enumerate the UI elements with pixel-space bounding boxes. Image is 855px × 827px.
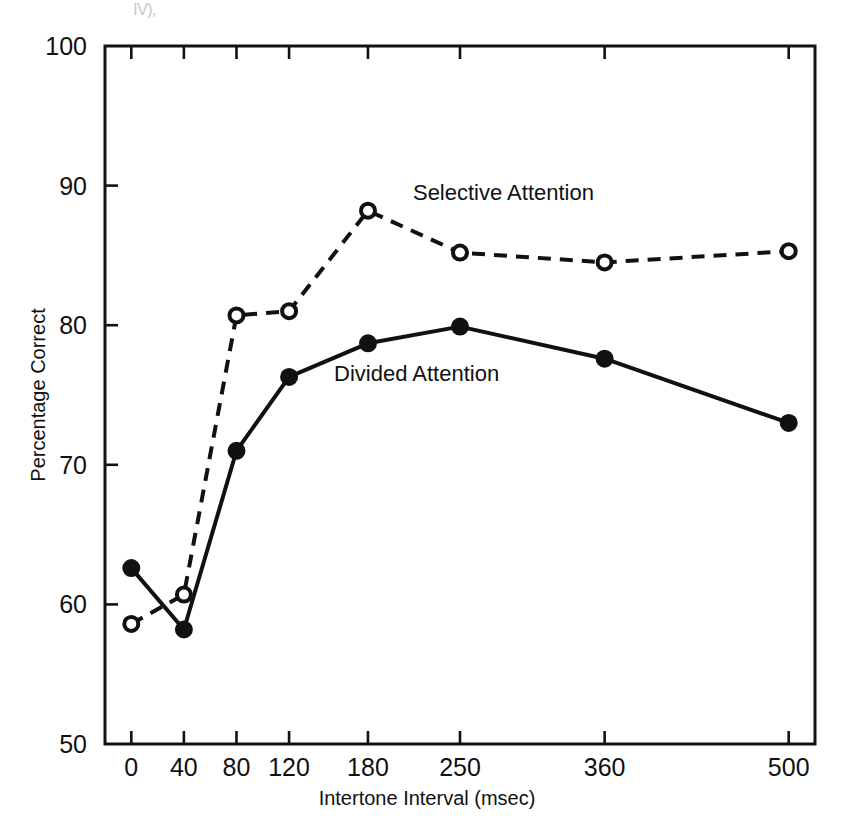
line-chart: 04080120180250360500 5060708090100 Selec… [0,0,855,827]
data-series-group [123,204,796,638]
data-point-marker [782,244,796,258]
x-tick-label: 180 [347,753,389,781]
x-tick-label: 40 [170,753,198,781]
data-point-marker [452,319,468,335]
x-axis-title: Intertone Interval (msec) [319,787,536,809]
x-tick-label: 80 [223,753,251,781]
data-point-marker [230,308,244,322]
data-point-marker [177,588,191,602]
data-point-marker [229,443,245,459]
x-tick-label: 250 [439,753,481,781]
y-tick-label: 100 [45,32,87,60]
y-axis-title: Percentage Correct [27,308,49,482]
series-annotation: Divided Attention [334,361,499,386]
data-point-marker [453,246,467,260]
y-tick-label: 70 [59,451,87,479]
chart-figure: IV), 04080120180250360500 5060708090100 … [0,0,855,827]
data-point-marker [360,335,376,351]
data-point-marker [123,560,139,576]
y-tick-label: 90 [59,172,87,200]
series-line [131,211,788,624]
y-tick-label: 60 [59,590,87,618]
x-tick-label: 360 [584,753,626,781]
data-point-marker [281,369,297,385]
y-tick-label: 50 [59,730,87,758]
x-tick-label: 120 [268,753,310,781]
data-point-marker [282,304,296,318]
data-point-marker [124,617,138,631]
y-tick-label: 80 [59,311,87,339]
axis-ticks [105,46,789,744]
data-point-marker [361,204,375,218]
x-tick-label: 500 [768,753,810,781]
y-axis-tick-labels: 5060708090100 [45,32,87,758]
series-selective-attention [124,204,795,631]
data-point-marker [781,415,797,431]
data-point-marker [598,255,612,269]
x-tick-label: 0 [124,753,138,781]
data-point-marker [597,351,613,367]
data-point-marker [176,622,192,638]
x-axis-tick-labels: 04080120180250360500 [124,753,809,781]
series-annotation: Selective Attention [413,180,594,205]
